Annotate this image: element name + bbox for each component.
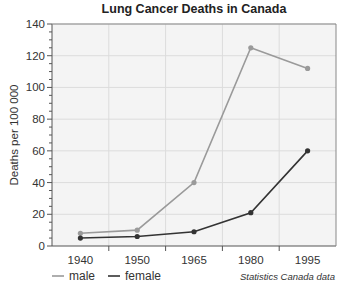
male-data-point: [78, 231, 83, 236]
female-data-point: [305, 148, 310, 153]
y-tick-label: 120: [26, 50, 45, 62]
y-tick-label: 60: [32, 145, 45, 157]
y-axis-label: Deaths per 100 000: [8, 84, 20, 185]
male-data-point: [191, 180, 196, 185]
x-tick-label: 1950: [124, 254, 150, 266]
x-tick-label: 1995: [295, 254, 321, 266]
y-tick-label: 0: [39, 240, 45, 252]
y-tick-label: 80: [32, 113, 45, 125]
x-axis-ticks: 19401950196519801995: [68, 246, 321, 266]
y-tick-label: 20: [32, 208, 45, 220]
male-data-point: [135, 228, 140, 233]
y-tick-label: 40: [32, 177, 45, 189]
y-tick-label: 100: [26, 81, 45, 93]
legend-label: female: [125, 269, 161, 283]
y-axis-ticks: 020406080100120140: [26, 18, 52, 252]
chart-title: Lung Cancer Deaths in Canada: [102, 2, 288, 16]
line-chart: Lung Cancer Deaths in Canada 02040608010…: [0, 0, 346, 293]
x-tick-label: 1965: [181, 254, 207, 266]
female-data-point: [135, 234, 140, 239]
male-data-point: [248, 45, 253, 50]
legend-item-male: male: [52, 269, 95, 283]
plot-area: [52, 24, 336, 246]
x-tick-label: 1940: [68, 254, 94, 266]
female-data-point: [248, 210, 253, 215]
source-note: Statistics Canada data: [240, 271, 335, 282]
y-tick-label: 140: [26, 18, 45, 30]
legend-label: male: [69, 269, 95, 283]
legend-item-female: female: [108, 269, 161, 283]
legend: malefemale: [52, 269, 161, 283]
x-tick-label: 1980: [238, 254, 264, 266]
male-data-point: [305, 66, 310, 71]
female-data-point: [191, 229, 196, 234]
female-data-point: [78, 235, 83, 240]
